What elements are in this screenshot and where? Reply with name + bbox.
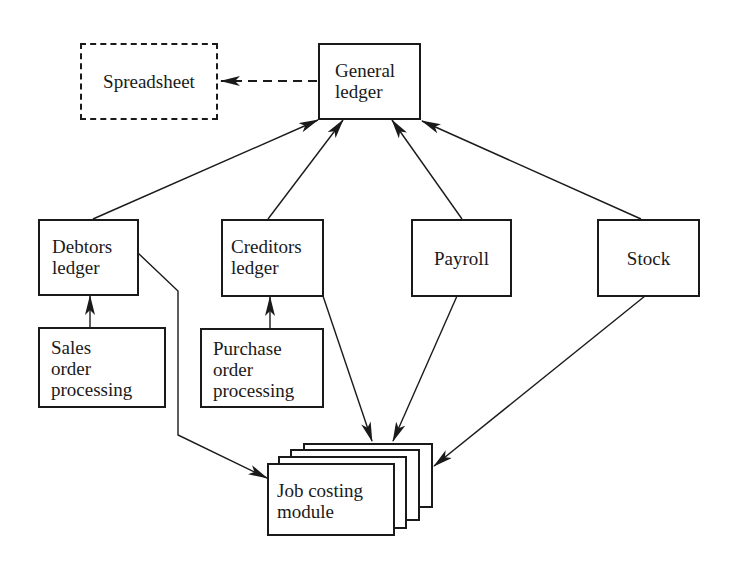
node-debtors-ledger: Debtors ledger bbox=[38, 219, 139, 296]
edge-payroll-to-general-ledger bbox=[392, 120, 462, 219]
node-stock-label: Stock bbox=[627, 248, 670, 269]
node-purchase-order-processing: Purchase order processing bbox=[200, 328, 324, 408]
node-stock: Stock bbox=[597, 219, 700, 297]
edge-creditors-to-general-ledger bbox=[268, 120, 343, 219]
node-job-costing-module-label: Job costing module bbox=[277, 480, 363, 522]
node-general-ledger: General ledger bbox=[318, 43, 421, 120]
edge-creditors-to-job-costing bbox=[323, 296, 372, 441]
node-creditors-ledger: Creditors ledger bbox=[221, 219, 324, 297]
edge-debtors-to-general-ledger bbox=[93, 120, 318, 219]
edge-stock-to-job-costing bbox=[434, 296, 645, 466]
node-sales-order-processing: Sales order processing bbox=[38, 327, 166, 408]
node-general-ledger-label: General ledger bbox=[335, 60, 395, 102]
node-sales-order-processing-label: Sales order processing bbox=[51, 337, 132, 400]
edge-stock-to-general-ledger bbox=[422, 121, 641, 219]
accounting-system-diagram: Spreadsheet General ledger Debtors ledge… bbox=[0, 0, 734, 562]
job-costing-card-front: Job costing module bbox=[267, 463, 395, 536]
node-debtors-ledger-label: Debtors ledger bbox=[52, 236, 112, 278]
node-purchase-order-processing-label: Purchase order processing bbox=[213, 338, 294, 401]
node-payroll-label: Payroll bbox=[434, 248, 489, 269]
node-payroll: Payroll bbox=[411, 219, 512, 297]
node-creditors-ledger-label: Creditors ledger bbox=[231, 236, 302, 278]
edge-payroll-to-job-costing bbox=[393, 296, 457, 441]
node-spreadsheet-label: Spreadsheet bbox=[103, 71, 195, 92]
node-spreadsheet: Spreadsheet bbox=[80, 43, 218, 120]
